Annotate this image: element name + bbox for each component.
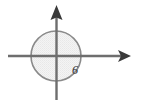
coordinate-plane-svg [0, 0, 142, 106]
math-diagram-figure: 6 [0, 0, 142, 106]
radius-label: 6 [72, 64, 78, 76]
